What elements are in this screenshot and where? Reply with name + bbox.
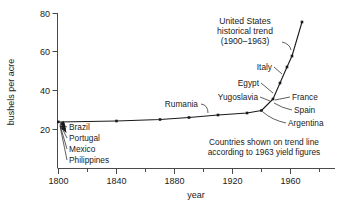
- data-point-marker: [57, 121, 60, 124]
- data-point-marker: [115, 120, 118, 123]
- x-tick-label-1920: 1920: [222, 176, 242, 186]
- label-yugoslavia: Yugoslavia: [218, 92, 259, 102]
- data-point-marker: [217, 114, 220, 117]
- label-mexico: Mexico: [69, 144, 96, 154]
- note-line-1: Countries shown on trend line: [209, 137, 319, 147]
- y-tick-label-20: 20: [40, 125, 50, 135]
- label-argentina: Argentina: [288, 118, 324, 128]
- title-line-2: historical trend: [217, 26, 273, 36]
- x-tick-label-1880: 1880: [164, 176, 184, 186]
- label-portugal: Portugal: [69, 133, 100, 143]
- label-philippines: Philippines: [69, 155, 109, 165]
- label-spain: Spain: [294, 105, 316, 115]
- label-france: France: [292, 92, 318, 102]
- y-tick-label-60: 60: [40, 47, 50, 57]
- label-italy: Italy: [257, 62, 273, 72]
- x-axis-title: year: [187, 190, 205, 200]
- note-line-2: according to 1963 yield figures: [208, 147, 321, 157]
- data-point-marker: [301, 21, 304, 24]
- data-point-marker: [246, 112, 249, 115]
- y-tick-label-40: 40: [40, 86, 50, 96]
- label-rumania: Rumania: [165, 99, 199, 109]
- x-tick-label-1840: 1840: [106, 176, 126, 186]
- data-point-marker: [291, 55, 294, 58]
- x-tick-label-1960: 1960: [280, 176, 300, 186]
- data-point-marker: [260, 109, 263, 112]
- x-tick-label-1800: 1800: [48, 176, 68, 186]
- title-line-1: United States: [219, 16, 271, 26]
- data-point-marker: [286, 66, 289, 69]
- chart-note: Countries shown on trend line according …: [208, 137, 321, 157]
- yield-trend-chart: 80 60 40 20 bushels per acre 1800 1840 1…: [0, 0, 346, 203]
- title-line-3: (1900–1963): [221, 36, 270, 46]
- y-axis-title: bushels per acre: [6, 59, 16, 126]
- label-brazil: Brazil: [69, 122, 90, 132]
- data-point-marker: [188, 116, 191, 119]
- label-egypt: Egypt: [238, 78, 260, 88]
- data-point-marker: [272, 98, 275, 101]
- data-point-marker: [159, 118, 162, 121]
- data-point-marker: [279, 82, 282, 85]
- y-tick-label-80: 80: [40, 9, 50, 19]
